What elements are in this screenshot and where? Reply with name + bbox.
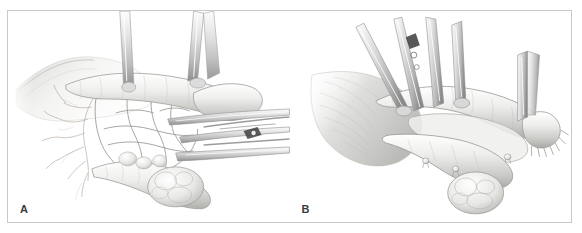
figure-frame: A bbox=[7, 10, 572, 223]
panel-b-illustration bbox=[290, 11, 572, 222]
panel-b-label: B bbox=[302, 203, 310, 215]
figure-panel-a: A bbox=[8, 11, 290, 222]
nodular-mass bbox=[447, 172, 503, 214]
nodular-mass bbox=[148, 167, 204, 207]
figure-panel-b: B bbox=[290, 11, 572, 222]
panel-a-label: A bbox=[20, 203, 28, 215]
panel-a-illustration bbox=[8, 11, 290, 222]
